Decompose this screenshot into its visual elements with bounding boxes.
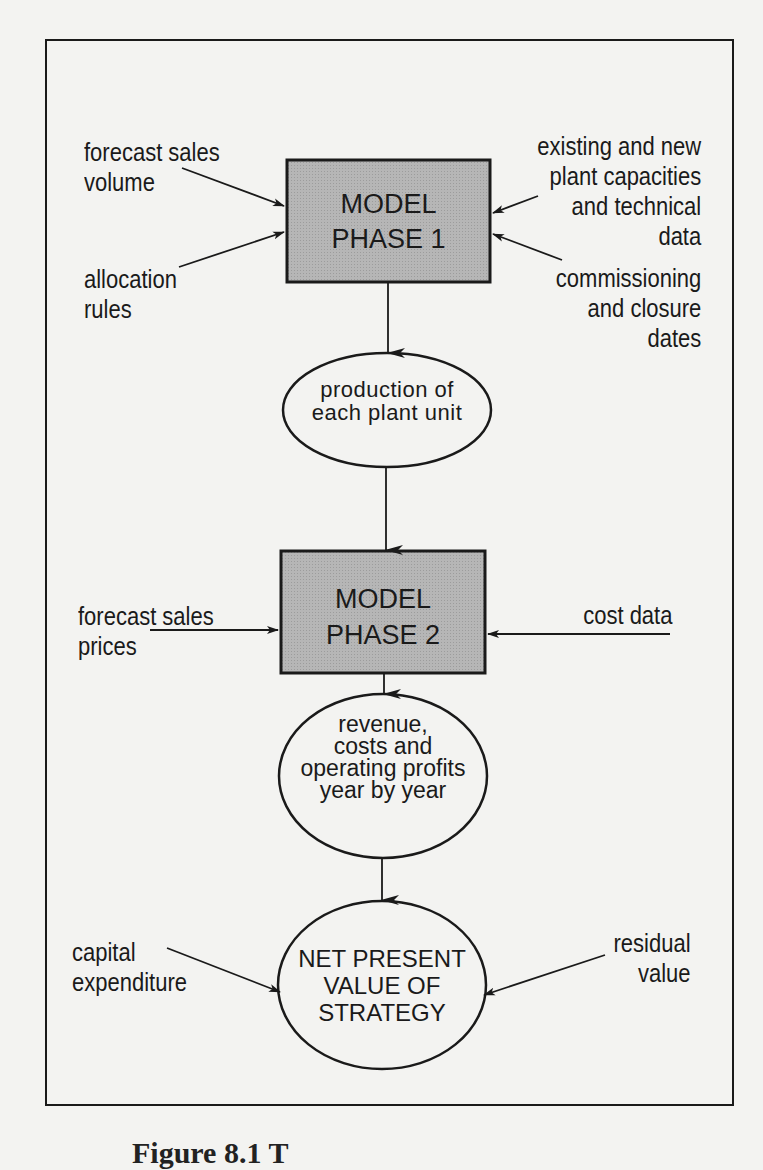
- capital-line-2: expenditure: [72, 967, 187, 997]
- npv-label: NET PRESENT VALUE OF STRATEGY: [278, 945, 486, 1026]
- capacities-line-3: and technical: [537, 191, 701, 221]
- residual-line-1: residual: [614, 928, 691, 958]
- input-forecast-sales-volume: forecast sales volume: [84, 137, 220, 197]
- npv-line-1: NET PRESENT: [278, 945, 486, 972]
- allocation-line-2: rules: [84, 294, 177, 324]
- forecast-volume-line-1: forecast sales: [84, 137, 220, 167]
- revenue-line-3: operating profits: [279, 757, 487, 779]
- input-forecast-sales-prices: forecast sales prices: [78, 601, 214, 661]
- production-line-1: production of: [283, 378, 491, 401]
- npv-line-3: STRATEGY: [278, 999, 486, 1026]
- capacities-line-2: plant capacities: [537, 161, 701, 191]
- model-phase-2-label: MODEL PHASE 2: [281, 581, 485, 653]
- model-phase-1-line-2: PHASE 1: [287, 222, 490, 257]
- forecast-volume-line-2: volume: [84, 167, 220, 197]
- input-allocation-rules: allocation rules: [84, 264, 177, 324]
- input-residual-value: residual value: [614, 928, 691, 988]
- npv-line-2: VALUE OF: [278, 972, 486, 999]
- model-phase-1-label: MODEL PHASE 1: [287, 187, 490, 257]
- arrow-allocation-rules: [179, 232, 284, 267]
- revenue-line-4: year by year: [279, 779, 487, 801]
- revenue-line-2: costs and: [279, 735, 487, 757]
- input-cost-data: cost data: [583, 600, 672, 630]
- forecast-prices-line-2: prices: [78, 631, 214, 661]
- model-phase-2-line-2: PHASE 2: [281, 617, 485, 653]
- production-label: production of each plant unit: [283, 378, 491, 424]
- residual-line-2: value: [614, 958, 691, 988]
- arrow-residual-value: [484, 955, 605, 995]
- model-phase-2-line-1: MODEL: [281, 581, 485, 617]
- revenue-line-1: revenue,: [279, 713, 487, 735]
- figure-caption: Figure 8.1 T: [132, 1136, 288, 1170]
- capacities-line-1: existing and new: [537, 131, 701, 161]
- cost-data-line-1: cost data: [583, 600, 672, 630]
- commissioning-line-2: and closure: [555, 293, 701, 323]
- commissioning-line-3: dates: [555, 323, 701, 353]
- commissioning-line-1: commissioning: [555, 263, 701, 293]
- input-commissioning-dates: commissioning and closure dates: [555, 263, 701, 353]
- input-plant-capacities: existing and new plant capacities and te…: [537, 131, 701, 251]
- allocation-line-1: allocation: [84, 264, 177, 294]
- capacities-line-4: data: [537, 221, 701, 251]
- forecast-prices-line-1: forecast sales: [78, 601, 214, 631]
- input-capital-expenditure: capital expenditure: [72, 937, 187, 997]
- revenue-label: revenue, costs and operating profits yea…: [279, 713, 487, 801]
- production-line-2: each plant unit: [283, 401, 491, 424]
- capital-line-1: capital: [72, 937, 187, 967]
- arrow-plant-capacities: [493, 196, 538, 213]
- model-phase-1-line-1: MODEL: [287, 187, 490, 222]
